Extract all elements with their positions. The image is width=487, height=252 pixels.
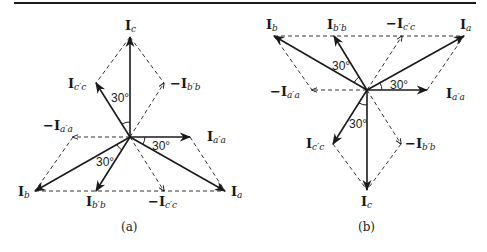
label-neg-Iaa: −Ia′a — [43, 118, 73, 134]
label-Ib: Ib — [18, 184, 30, 200]
panel-a: 30° 30° 30° Ic Ic′c −Ib′b −Ia′a Ia′a Ib … — [18, 18, 242, 234]
caption-b: (b) — [358, 220, 375, 234]
label-neg-Ibb: −Ib′b — [405, 136, 436, 152]
label-Ibb: Ib′b — [86, 194, 106, 210]
label-Ibb: Ib′b — [327, 17, 347, 33]
label-Iaa: Ia′a — [446, 86, 465, 102]
label-Ic: Ic — [361, 194, 372, 210]
angle-label: 30° — [96, 155, 114, 169]
label-Icc: Ic′c — [68, 76, 86, 92]
label-Ia: Ia — [231, 184, 242, 200]
label-Icc: Ic′c — [306, 136, 324, 152]
angle-label: 30° — [152, 139, 170, 153]
angle-label: 30° — [111, 91, 129, 105]
label-Ic: Ic — [125, 18, 136, 34]
panel-b: 30° 30° 30° Ib Ib′b −Ic′c Ia −Ia′a Ia′a … — [266, 16, 471, 234]
label-Ia: Ia — [460, 17, 471, 33]
angle-label: 30° — [349, 117, 367, 131]
angle-label: 30° — [332, 59, 350, 73]
label-Iaa: Ia′a — [207, 129, 226, 145]
label-neg-Icc: −Ic′c — [148, 194, 177, 210]
label-neg-Ibb: −Ib′b — [170, 76, 201, 92]
label-Ib: Ib — [266, 17, 278, 33]
label-neg-Iaa: −Ia′a — [270, 84, 300, 100]
caption-a: (a) — [121, 220, 138, 234]
angle-label: 30° — [390, 78, 408, 92]
phasor-diagram: 30° 30° 30° Ic Ic′c −Ib′b −Ia′a Ia′a Ib … — [0, 0, 487, 252]
label-neg-Icc: −Ic′c — [386, 16, 415, 32]
